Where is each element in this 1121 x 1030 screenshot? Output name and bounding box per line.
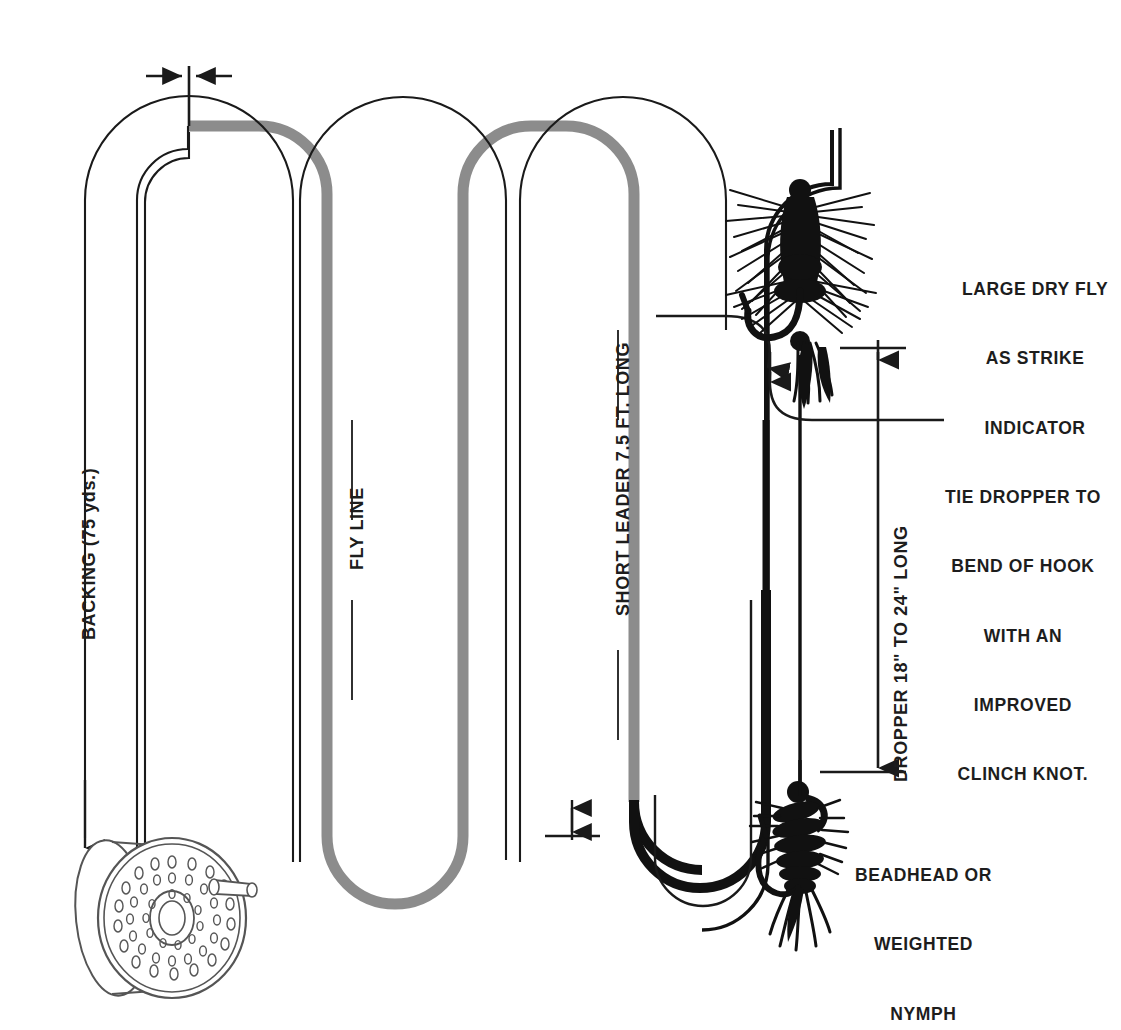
label-dry-fly-line-3: INDICATOR xyxy=(962,417,1108,440)
fly-line-path xyxy=(188,125,566,904)
label-tie-line-4: IMPROVED xyxy=(945,694,1101,717)
label-dropper: DROPPER 18" TO 24" LONG xyxy=(890,525,914,782)
label-tie-dropper-instructions: TIE DROPPER TO BEND OF HOOK WITH AN IMPR… xyxy=(945,440,1101,833)
label-backing: BACKING (75 yds.) xyxy=(78,468,102,640)
backing-flyline-junction-marker xyxy=(146,66,232,126)
label-tie-line-5: CLINCH KNOT. xyxy=(945,763,1101,786)
label-nymph: BEADHEAD OR WEIGHTED NYMPH xyxy=(855,818,992,1030)
backing-path xyxy=(85,96,293,862)
label-tie-line-3: WITH AN xyxy=(945,625,1101,648)
label-nymph-line-1: BEADHEAD OR xyxy=(855,864,992,887)
fly-reel xyxy=(68,837,257,1000)
label-dry-fly-line-1: LARGE DRY FLY xyxy=(962,278,1108,301)
flyline-leader-junction-marker xyxy=(545,800,600,840)
label-nymph-line-2: WEIGHTED xyxy=(855,933,992,956)
fly-line-second-loop xyxy=(566,126,634,194)
label-tie-line-2: BEND OF HOOK xyxy=(945,555,1101,578)
label-nymph-line-3: NYMPH xyxy=(855,1003,992,1026)
dry-fly-illustration xyxy=(726,179,876,409)
label-dry-fly-line-2: AS STRIKE xyxy=(962,347,1108,370)
label-short-leader: SHORT LEADER 7.5 FT. LONG xyxy=(612,342,636,616)
label-tie-line-1: TIE DROPPER TO xyxy=(945,486,1101,509)
label-fly-line: FLY LINE xyxy=(346,487,370,570)
diagram-canvas: BACKING (75 yds.) FLY LINE SHORT LEADER … xyxy=(0,0,1121,1030)
fly-line-outer-contour xyxy=(300,97,726,862)
